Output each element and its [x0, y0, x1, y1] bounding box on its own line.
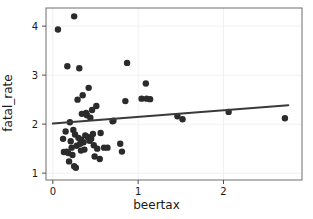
x-tick-label: 0 [50, 186, 56, 197]
data-point [65, 150, 71, 156]
y-axis-ticks: 1234 [32, 21, 46, 179]
scatter-plot: 012 1234 [0, 0, 313, 219]
plot-panel [46, 8, 302, 180]
data-point [94, 145, 100, 151]
data-point [62, 128, 68, 134]
y-tick-label: 3 [32, 70, 38, 81]
data-point [68, 138, 74, 144]
data-point [122, 98, 128, 104]
x-axis-ticks: 012 [50, 180, 227, 197]
data-point [79, 92, 85, 98]
data-point [124, 60, 130, 66]
data-point [119, 148, 125, 154]
data-point [71, 13, 77, 19]
chart-figure: 012 1234 beertax fatal_rate [0, 0, 313, 219]
data-point [71, 163, 77, 169]
data-point [93, 103, 99, 109]
data-point [282, 115, 288, 121]
data-point [66, 158, 72, 164]
data-point [143, 80, 149, 86]
x-tick-label: 2 [220, 186, 226, 197]
y-tick-label: 4 [32, 21, 38, 32]
data-point [60, 136, 66, 142]
data-point [79, 111, 85, 117]
data-point [74, 96, 80, 102]
data-point [101, 144, 107, 150]
data-point [78, 147, 84, 153]
data-point [143, 95, 149, 101]
y-axis-label: fatal_rate [1, 73, 15, 133]
x-tick-label: 1 [135, 186, 141, 197]
y-tick-label: 2 [32, 119, 38, 130]
data-point [97, 130, 103, 136]
data-point [55, 26, 61, 32]
data-point [85, 85, 91, 91]
x-axis-label: beertax [0, 198, 313, 212]
data-point [117, 141, 123, 147]
data-point [82, 132, 88, 138]
data-point [76, 65, 82, 71]
data-point [179, 116, 185, 122]
data-point [64, 63, 70, 69]
data-point [77, 141, 83, 147]
y-tick-label: 1 [32, 168, 38, 179]
data-point [97, 156, 103, 162]
